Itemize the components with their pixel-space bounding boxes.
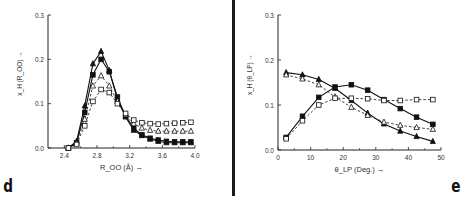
y-tick-label: 0.1 <box>35 100 44 107</box>
y-tick-label: 0.2 <box>35 56 44 63</box>
x-tick-label: 0 <box>276 154 280 161</box>
y-tick-label: 0.1 <box>265 102 274 109</box>
x-tick-label: 2.4 <box>60 152 69 159</box>
square-marker <box>164 139 169 144</box>
triangle-marker <box>188 128 193 133</box>
square-marker <box>398 106 403 111</box>
x-tick-label: 20 <box>340 154 348 161</box>
square-marker <box>189 120 194 125</box>
x-axis-label: θ_LP (Deg.) → <box>335 165 385 174</box>
triangle-marker <box>98 73 103 78</box>
square-marker <box>156 122 161 127</box>
x-tick-label: 10 <box>307 154 315 161</box>
panel-label-e: e <box>451 176 460 196</box>
y-tick-label: 0.2 <box>265 57 274 64</box>
square-marker <box>82 124 87 129</box>
square-marker <box>300 118 305 123</box>
square-marker <box>333 96 338 101</box>
square-marker <box>91 99 96 104</box>
square-marker <box>398 98 403 103</box>
square-marker <box>107 69 112 74</box>
data-series <box>66 48 194 150</box>
panel-label-d: d <box>3 176 13 196</box>
triangle-marker <box>180 128 185 133</box>
square-marker <box>99 57 104 62</box>
square-marker <box>131 126 136 131</box>
x-tick-label: 3.6 <box>158 152 167 159</box>
y-tick-label: 0.0 <box>35 145 44 152</box>
triangle-marker <box>98 48 103 53</box>
square-marker <box>156 138 161 143</box>
triangle-marker <box>381 119 386 124</box>
square-marker <box>148 121 153 126</box>
x-tick-label: 4.0 <box>190 152 199 159</box>
square-marker <box>180 120 185 125</box>
triangle-marker <box>139 125 144 130</box>
triangle-marker <box>107 83 112 88</box>
square-marker <box>349 82 354 87</box>
x-tick-label: 30 <box>372 154 380 161</box>
square-marker <box>99 87 104 92</box>
square-marker <box>431 97 436 102</box>
data-series <box>284 96 435 141</box>
square-marker <box>349 96 354 101</box>
x-tick-label: 50 <box>437 154 445 161</box>
square-marker <box>140 120 145 125</box>
square-marker <box>66 146 71 151</box>
square-marker <box>414 115 419 120</box>
triangle-marker <box>398 122 403 127</box>
triangle-marker <box>156 128 161 133</box>
x-tick-label: 40 <box>405 154 413 161</box>
square-marker <box>91 73 96 78</box>
square-marker <box>107 90 112 95</box>
square-marker <box>382 98 387 103</box>
square-marker <box>74 142 79 147</box>
triangle-marker <box>349 104 354 109</box>
x-tick-label: 2.8 <box>92 152 101 159</box>
square-marker <box>189 139 194 144</box>
square-marker <box>316 95 321 100</box>
square-marker <box>333 85 338 90</box>
square-marker <box>414 97 419 102</box>
square-marker <box>172 121 177 126</box>
square-marker <box>180 139 185 144</box>
chart-panel-e: 0.00.10.20.301020304050θ_LP (Deg.) →x_H … <box>235 0 469 175</box>
square-marker <box>115 101 120 106</box>
square-marker <box>316 103 321 108</box>
figure: 0.00.10.20.32.42.83.23.64.0R_OO (Å) →x_H… <box>0 0 469 207</box>
triangle-marker <box>147 127 152 132</box>
axes: 0.00.10.20.301020304050θ_LP (Deg.) →x_H … <box>246 12 445 175</box>
data-series <box>284 70 436 144</box>
square-marker <box>131 118 136 123</box>
y-tick-label: 0.3 <box>35 12 44 19</box>
y-axis-label: x_H (R_OO) → <box>16 51 24 95</box>
triangle-marker <box>164 128 169 133</box>
square-marker <box>172 139 177 144</box>
data-series <box>284 72 436 132</box>
triangle-marker <box>172 128 177 133</box>
square-marker <box>365 88 370 93</box>
square-marker <box>284 136 289 141</box>
x-axis-label: R_OO (Å) → <box>100 163 143 172</box>
square-marker <box>300 114 305 119</box>
square-marker <box>140 132 145 137</box>
y-tick-label: 0.3 <box>265 12 274 19</box>
square-marker <box>123 111 128 116</box>
square-marker <box>148 136 153 141</box>
x-tick-label: 3.2 <box>125 152 134 159</box>
y-tick-label: 0.0 <box>265 147 274 154</box>
square-marker <box>164 121 169 126</box>
y-axis-label: x_H (θ_LP) → <box>246 54 254 95</box>
square-marker <box>365 96 370 101</box>
chart-panel-d: 0.00.10.20.32.42.83.23.64.0R_OO (Å) →x_H… <box>0 0 232 175</box>
